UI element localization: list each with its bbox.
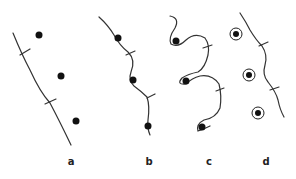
tick-icon [147, 94, 155, 98]
dot-icon [173, 38, 180, 45]
line-a [13, 33, 71, 145]
dot-icon [73, 118, 80, 125]
panel-b [99, 17, 155, 135]
line-b [99, 17, 150, 135]
line-d [240, 13, 284, 117]
dot-icon [233, 31, 239, 37]
dot-icon [145, 123, 152, 130]
dot-icon [246, 72, 252, 78]
dot-icon [130, 77, 137, 84]
dot-icon [115, 35, 122, 42]
tick-icon [203, 45, 212, 48]
panel-label-a: a [68, 156, 75, 167]
panel-a [13, 33, 71, 145]
dot-icon [58, 73, 65, 80]
panel-c [170, 16, 224, 131]
panel-label-d: d [262, 156, 269, 167]
diagram-canvas [0, 0, 296, 179]
dot-icon [183, 78, 190, 85]
dot-icon [255, 110, 261, 116]
panel-d [240, 13, 284, 117]
dot-icon [199, 124, 206, 131]
dot-icon [36, 32, 43, 39]
panel-label-c: c [206, 156, 212, 167]
panel-label-b: b [145, 156, 152, 167]
line-c [170, 16, 221, 131]
